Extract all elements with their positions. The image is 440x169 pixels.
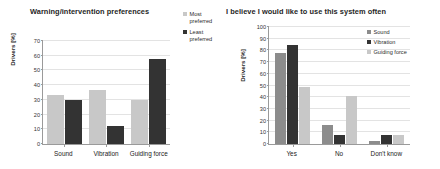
y-axis-tick-mark	[41, 128, 43, 129]
y-axis-tick-label: 0	[263, 141, 266, 147]
bar	[346, 96, 357, 144]
y-axis-tick-label: 0	[37, 141, 40, 147]
x-axis-tick-label: Don't know	[363, 150, 410, 158]
chart-legend: SoundVibrationGuiding force	[367, 29, 440, 59]
chart-panel-warning-preferences: Warning/intervention preferences Drivers…	[0, 0, 220, 169]
x-axis-tick-mark	[64, 144, 65, 147]
y-axis-tick-label: 20	[260, 118, 266, 124]
y-axis-tick-mark	[41, 143, 43, 144]
bar	[381, 135, 392, 144]
y-axis-tick-label: 90	[260, 36, 266, 42]
y-axis-tick-label: 60	[260, 71, 266, 77]
y-axis-tick-mark	[41, 84, 43, 85]
plot-area: 010203040506070	[42, 41, 170, 145]
bar	[334, 135, 345, 144]
x-axis-tick-mark	[149, 144, 150, 147]
y-axis-tick-mark	[41, 99, 43, 100]
y-axis-tick-label: 10	[260, 129, 266, 135]
legend-item: Least preferred	[183, 29, 223, 43]
bar-group	[128, 41, 170, 144]
two-chart-figure: Warning/intervention preferences Drivers…	[0, 0, 440, 169]
y-axis-tick-mark	[267, 120, 269, 121]
y-axis-tick-label: 70	[260, 59, 266, 65]
bar	[275, 53, 286, 144]
legend-item: Guiding force	[367, 49, 440, 56]
y-axis-tick-label: 60	[34, 53, 40, 59]
bar	[89, 90, 106, 144]
chart-legend: Most preferredLeast preferred	[183, 11, 223, 47]
chart-title: Warning/intervention preferences	[30, 7, 149, 16]
y-axis-label: Drivers [%]	[9, 30, 16, 70]
x-axis-tick-mark	[387, 144, 388, 147]
x-axis-tick-labels: YesNoDon't know	[268, 150, 410, 158]
x-axis-tick-mark	[340, 144, 341, 147]
legend-swatch-icon	[183, 12, 187, 16]
legend-swatch-icon	[367, 50, 371, 54]
bar	[322, 125, 333, 144]
y-axis-tick-mark	[41, 40, 43, 41]
y-axis-tick-label: 30	[34, 97, 40, 103]
y-axis-tick-label: 70	[34, 38, 40, 44]
bar	[299, 87, 310, 144]
bar-group	[316, 27, 363, 144]
x-axis-tick-label: No	[315, 150, 362, 158]
legend-swatch-icon	[183, 30, 187, 34]
bar	[393, 135, 404, 144]
y-axis-tick-label: 50	[260, 83, 266, 89]
x-axis-tick-mark	[106, 144, 107, 147]
legend-label: Least preferred	[190, 29, 213, 43]
x-axis-tick-label: Sound	[42, 150, 85, 158]
y-axis-tick-mark	[267, 85, 269, 86]
legend-label: Vibration	[374, 39, 396, 46]
y-axis-tick-label: 10	[34, 126, 40, 132]
y-axis-tick-mark	[41, 114, 43, 115]
bar	[287, 45, 298, 144]
legend-item: Most preferred	[183, 11, 223, 25]
legend-item: Sound	[367, 29, 440, 36]
legend-item: Vibration	[367, 39, 440, 46]
y-axis-tick-mark	[267, 96, 269, 97]
y-axis-tick-mark	[41, 69, 43, 70]
chart-title: I believe I would like to use this syste…	[226, 7, 386, 16]
bar	[65, 100, 82, 144]
y-axis-tick-mark	[267, 49, 269, 50]
x-axis-tick-labels: SoundVibrationGuiding force	[42, 150, 170, 158]
bar	[47, 95, 64, 144]
legend-label: Sound	[374, 29, 390, 36]
bar	[107, 126, 124, 144]
y-axis-tick-label: 50	[34, 67, 40, 73]
y-axis-tick-mark	[267, 38, 269, 39]
bar-group	[85, 41, 127, 144]
legend-label: Most preferred	[190, 11, 213, 25]
bar-group	[269, 27, 316, 144]
bar-groups	[43, 41, 170, 144]
y-axis-tick-label: 20	[34, 112, 40, 118]
y-axis-label: Drivers [%]	[239, 46, 246, 86]
y-axis-tick-label: 40	[260, 94, 266, 100]
bar	[149, 59, 166, 144]
x-axis-tick-mark	[293, 144, 294, 147]
legend-label: Guiding force	[374, 49, 407, 56]
x-axis-tick-label: Yes	[268, 150, 315, 158]
y-axis-tick-mark	[41, 55, 43, 56]
y-axis-tick-mark	[267, 61, 269, 62]
y-axis-tick-label: 80	[260, 47, 266, 53]
y-axis-tick-mark	[267, 73, 269, 74]
y-axis-tick-mark	[267, 26, 269, 27]
y-axis-tick-label: 100	[257, 24, 266, 30]
legend-swatch-icon	[367, 30, 371, 34]
x-axis-tick-label: Vibration	[85, 150, 128, 158]
bar	[131, 100, 148, 144]
bar	[369, 141, 380, 145]
y-axis-tick-label: 30	[260, 106, 266, 112]
x-axis-tick-label: Guiding force	[127, 150, 170, 158]
y-axis-tick-mark	[267, 143, 269, 144]
y-axis-tick-mark	[267, 131, 269, 132]
y-axis-tick-mark	[267, 108, 269, 109]
legend-swatch-icon	[367, 40, 371, 44]
bar-group	[43, 41, 85, 144]
chart-panel-system-use: I believe I would like to use this syste…	[220, 0, 440, 169]
y-axis-tick-label: 40	[34, 82, 40, 88]
